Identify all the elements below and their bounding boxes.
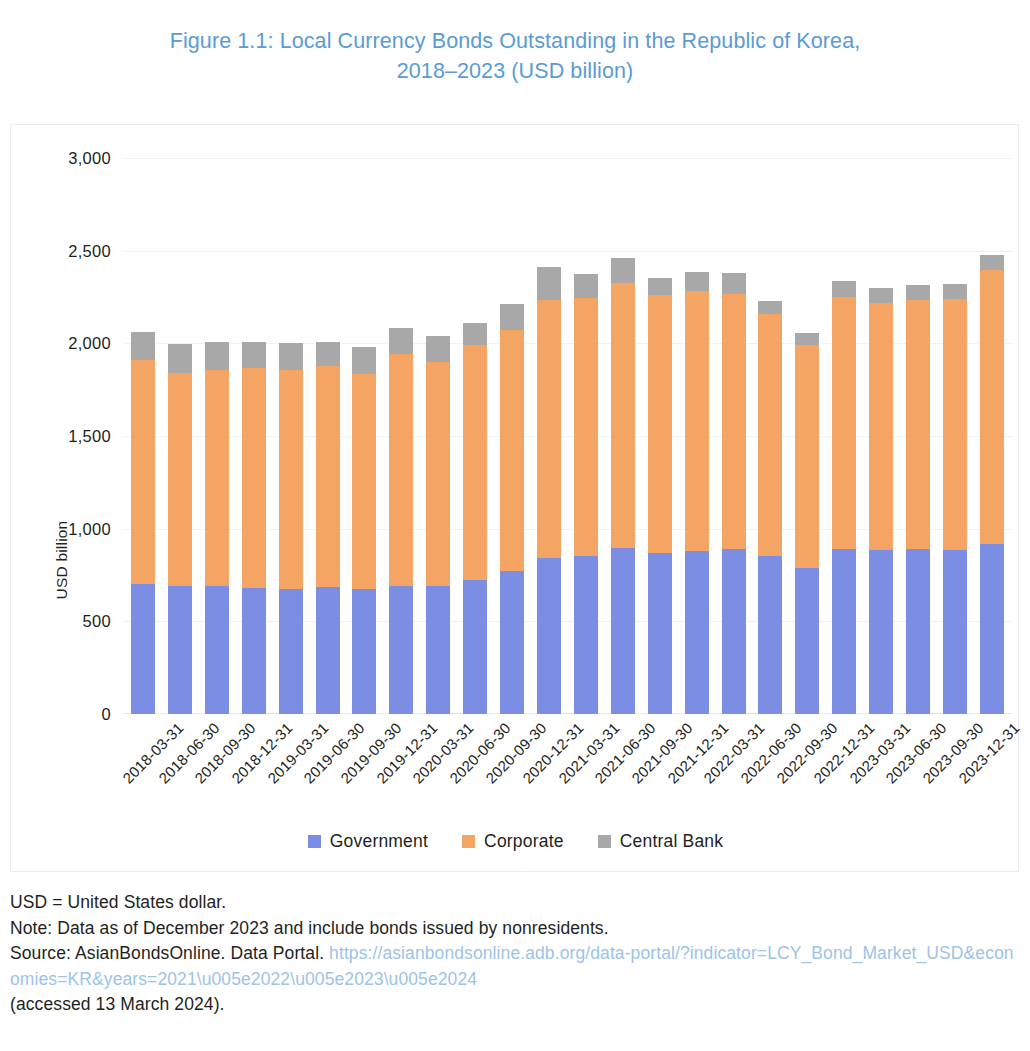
footnote-source: Source: AsianBondsOnline. Data Portal. h…: [10, 941, 1020, 992]
legend-item-central-bank[interactable]: Central Bank: [598, 831, 724, 852]
chart-legend: GovernmentCorporateCentral Bank: [11, 831, 1020, 852]
bar-column[interactable]: [795, 158, 819, 714]
bar-segment-corporate: [795, 345, 819, 567]
bar-segment-corporate: [869, 303, 893, 550]
bar-column[interactable]: [980, 158, 1004, 714]
legend-item-government[interactable]: Government: [308, 831, 428, 852]
bar-column[interactable]: [168, 158, 192, 714]
bar-column[interactable]: [500, 158, 524, 714]
plot-area: 05001,0001,5002,0002,5003,000: [123, 158, 1020, 714]
y-axis-tick-label: 3,000: [68, 149, 111, 168]
bar-segment-corporate: [758, 314, 782, 556]
y-axis-tick-label: 1,500: [68, 427, 111, 446]
chart-container: USD billion 05001,0001,5002,0002,5003,00…: [10, 124, 1019, 872]
bar-segment-government: [537, 558, 561, 714]
y-axis-tick-label: 2,000: [68, 334, 111, 353]
bar-column[interactable]: [574, 158, 598, 714]
footnotes: USD = United States dollar. Note: Data a…: [10, 890, 1020, 1018]
bar-column[interactable]: [279, 158, 303, 714]
bar-column[interactable]: [131, 158, 155, 714]
bar-segment-government: [611, 548, 635, 714]
bar-segment-corporate: [426, 362, 450, 586]
bar-segment-government: [426, 586, 450, 714]
bar-segment-central-bank: [168, 344, 192, 372]
bar-column[interactable]: [242, 158, 266, 714]
legend-label: Government: [330, 831, 428, 852]
bar-segment-central-bank: [574, 274, 598, 298]
bar-segment-corporate: [722, 294, 746, 549]
bar-segment-government: [500, 571, 524, 714]
bar-segment-central-bank: [463, 323, 487, 346]
bar-column[interactable]: [906, 158, 930, 714]
bar-segment-government: [279, 589, 303, 714]
legend-swatch-icon: [462, 835, 475, 848]
bar-segment-central-bank: [869, 288, 893, 302]
page-title: Figure 1.1: Local Currency Bonds Outstan…: [0, 0, 1030, 86]
bar-segment-central-bank: [685, 272, 709, 291]
bar-segment-government: [980, 544, 1004, 714]
bar-column[interactable]: [316, 158, 340, 714]
bar-segment-corporate: [463, 345, 487, 579]
bar-segment-government: [722, 549, 746, 714]
bar-segment-central-bank: [906, 285, 930, 299]
bar-segment-government: [832, 549, 856, 714]
bar-segment-central-bank: [537, 267, 561, 299]
bar-segment-government: [352, 589, 376, 714]
bar-segment-government: [205, 586, 229, 714]
bar-segment-corporate: [906, 300, 930, 549]
bar-segment-government: [906, 549, 930, 714]
bar-segment-central-bank: [426, 336, 450, 361]
bar-segment-corporate: [352, 374, 376, 590]
bar-segment-central-bank: [352, 347, 376, 373]
bar-segment-central-bank: [648, 278, 672, 296]
bar-segment-government: [389, 586, 413, 714]
bar-segment-corporate: [389, 354, 413, 586]
bar-segment-government: [758, 556, 782, 714]
legend-swatch-icon: [308, 835, 321, 848]
figure-title-line-2: 2018–2023 (USD billion): [70, 56, 960, 86]
bar-series-group: [123, 158, 1012, 714]
bar-segment-government: [685, 551, 709, 714]
bar-column[interactable]: [352, 158, 376, 714]
bar-segment-central-bank: [611, 258, 635, 283]
bar-column[interactable]: [389, 158, 413, 714]
bar-column[interactable]: [463, 158, 487, 714]
bar-segment-central-bank: [758, 301, 782, 314]
bar-segment-corporate: [832, 297, 856, 549]
bar-segment-government: [242, 588, 266, 714]
bar-column[interactable]: [205, 158, 229, 714]
legend-label: Corporate: [484, 831, 564, 852]
bar-column[interactable]: [943, 158, 967, 714]
bar-segment-central-bank: [943, 284, 967, 299]
bar-segment-government: [795, 568, 819, 714]
bar-segment-central-bank: [980, 255, 1004, 270]
y-axis-tick-label: 0: [102, 705, 111, 724]
bar-column[interactable]: [426, 158, 450, 714]
bar-segment-corporate: [316, 366, 340, 587]
bar-column[interactable]: [869, 158, 893, 714]
bar-segment-corporate: [574, 298, 598, 556]
x-axis-tick-labels: 2018-03-312018-06-302018-09-302018-12-31…: [123, 719, 1020, 831]
bar-column[interactable]: [537, 158, 561, 714]
bar-segment-corporate: [168, 373, 192, 587]
bar-segment-corporate: [242, 368, 266, 588]
footnote-note: Note: Data as of December 2023 and inclu…: [10, 916, 1020, 942]
legend-label: Central Bank: [620, 831, 724, 852]
bar-segment-corporate: [648, 295, 672, 553]
bar-column[interactable]: [832, 158, 856, 714]
bar-column[interactable]: [648, 158, 672, 714]
bar-segment-government: [168, 586, 192, 714]
legend-swatch-icon: [598, 835, 611, 848]
bar-segment-government: [869, 550, 893, 714]
bar-column[interactable]: [758, 158, 782, 714]
bar-column[interactable]: [611, 158, 635, 714]
bar-column[interactable]: [685, 158, 709, 714]
bar-segment-corporate: [611, 283, 635, 548]
bar-segment-corporate: [685, 291, 709, 550]
y-axis-tick-label: 500: [83, 612, 111, 631]
figure-title-line-1: Figure 1.1: Local Currency Bonds Outstan…: [70, 26, 960, 56]
footnote-accessed: (accessed 13 March 2024).: [10, 992, 1020, 1018]
bar-column[interactable]: [722, 158, 746, 714]
bar-segment-central-bank: [722, 273, 746, 294]
legend-item-corporate[interactable]: Corporate: [462, 831, 564, 852]
